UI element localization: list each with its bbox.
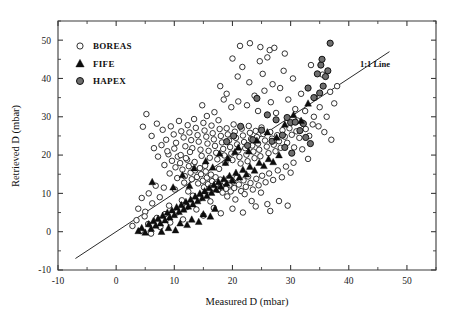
data-point-hapex (314, 71, 320, 77)
data-point-boreas (191, 116, 197, 122)
data-point-boreas (327, 89, 333, 95)
data-point-boreas (179, 129, 185, 135)
data-point-boreas (220, 146, 226, 152)
data-point-boreas (258, 153, 264, 159)
x-tick-label: 50 (402, 276, 412, 286)
data-point-boreas (308, 62, 314, 68)
data-point-hapex (279, 132, 285, 138)
data-point-boreas (144, 111, 150, 117)
scatter-plot-figure: -1001020304050 -1001020304050 BOREASFIFE… (0, 0, 454, 321)
data-point-boreas (155, 154, 161, 160)
data-point-boreas (331, 101, 337, 107)
data-point-boreas (236, 182, 242, 188)
data-point-boreas (258, 190, 264, 196)
data-point-hapex (238, 123, 244, 129)
data-point-hapex (264, 112, 270, 118)
data-point-boreas (273, 110, 279, 116)
data-point-boreas (149, 133, 155, 139)
data-point-boreas (202, 128, 208, 134)
data-point-boreas (282, 51, 288, 57)
x-tick-label: -10 (52, 276, 65, 286)
data-point-boreas (134, 217, 140, 223)
data-point-boreas (230, 56, 236, 62)
data-point-boreas (277, 85, 283, 91)
data-point-hapex (311, 95, 317, 101)
y-tick-label: 40 (42, 74, 52, 84)
data-point-boreas (160, 127, 166, 133)
data-point-boreas (272, 45, 278, 51)
data-point-boreas (290, 76, 296, 82)
data-point-boreas (281, 68, 287, 74)
data-point-boreas (225, 132, 231, 138)
data-point-boreas (227, 144, 233, 150)
data-point-hapex (320, 83, 326, 89)
data-point-boreas (279, 175, 285, 181)
data-point-boreas (305, 156, 311, 162)
data-point-boreas (186, 189, 192, 195)
data-point-boreas (185, 122, 191, 128)
data-point-boreas (311, 114, 317, 120)
x-tick-label: 0 (114, 276, 119, 286)
data-point-boreas (268, 208, 274, 214)
data-point-boreas (237, 154, 243, 160)
data-point-hapex (244, 142, 250, 148)
data-point-boreas (166, 203, 172, 209)
legend-label-fife: FIFE (93, 59, 115, 69)
data-point-boreas (199, 153, 205, 159)
data-point-boreas (329, 137, 335, 143)
data-point-boreas (210, 130, 216, 136)
data-point-boreas (264, 144, 270, 150)
data-point-boreas (206, 148, 212, 154)
data-point-hapex (292, 119, 298, 125)
data-point-boreas (161, 185, 167, 191)
data-point-boreas (224, 194, 230, 200)
data-point-hapex (273, 117, 279, 123)
data-point-hapex (282, 144, 288, 150)
data-point-boreas (183, 155, 189, 161)
data-point-boreas (215, 157, 221, 163)
data-point-boreas (196, 139, 202, 145)
legend-label-boreas: BOREAS (93, 41, 132, 51)
data-point-boreas (245, 158, 251, 164)
data-point-boreas (255, 108, 261, 114)
y-tick-label: 50 (42, 36, 52, 46)
data-point-boreas (275, 168, 281, 174)
data-point-boreas (187, 149, 193, 155)
data-point-boreas (270, 81, 276, 87)
data-point-boreas (317, 104, 323, 110)
data-point-boreas (316, 124, 322, 130)
data-point-boreas (193, 125, 199, 131)
data-point-boreas (265, 55, 271, 61)
data-point-hapex (305, 85, 311, 91)
data-point-boreas (218, 133, 224, 139)
data-point-boreas (240, 133, 246, 139)
data-point-boreas (217, 126, 223, 132)
data-point-boreas (298, 91, 304, 97)
data-point-boreas (254, 176, 260, 182)
data-point-boreas (302, 108, 308, 114)
data-point-boreas (256, 147, 262, 153)
data-point-boreas (217, 83, 223, 89)
data-point-boreas (192, 159, 198, 165)
data-point-boreas (173, 165, 179, 171)
x-tick-label: 40 (344, 276, 354, 286)
annotation-one-to-one-line: 1:1 Line (360, 59, 390, 69)
data-point-hapex (297, 127, 303, 133)
data-point-boreas (162, 162, 168, 168)
y-tick-label: -10 (38, 265, 51, 275)
legend-marker-hapex (77, 78, 84, 85)
data-point-boreas (159, 142, 165, 148)
data-point-hapex (325, 68, 331, 74)
data-point-boreas (187, 130, 193, 136)
data-point-hapex (307, 140, 313, 146)
plot-canvas: -1001020304050 -1001020304050 BOREASFIFE… (0, 0, 454, 321)
data-point-boreas (154, 121, 160, 127)
data-point-hapex (289, 150, 295, 156)
data-point-boreas (173, 140, 179, 146)
data-point-boreas (194, 207, 200, 213)
data-point-boreas (189, 176, 195, 182)
data-point-boreas (237, 43, 243, 49)
data-point-boreas (291, 145, 297, 151)
data-point-boreas (238, 161, 244, 167)
data-point-boreas (157, 194, 163, 200)
